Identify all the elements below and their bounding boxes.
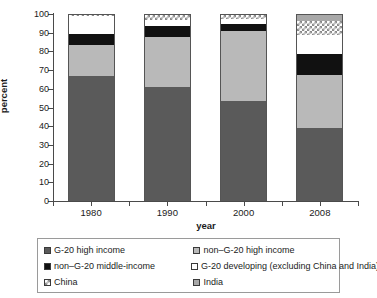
y-tick-label: 70 (39, 66, 49, 75)
x-tick-label: 1990 (137, 207, 197, 218)
y-tick-label: 80 (39, 47, 49, 56)
y-tick-label: 60 (39, 84, 49, 93)
legend-swatch-icon (193, 279, 200, 286)
y-tick-label: 40 (39, 122, 49, 131)
stacked-bar[interactable] (220, 14, 267, 201)
y-tick-label: 50 (39, 103, 49, 112)
y-tick-label: 100 (34, 10, 49, 19)
bar-segment[interactable] (69, 76, 114, 201)
y-tick-label: 20 (39, 159, 49, 168)
legend-swatch-icon (193, 247, 200, 254)
legend-item[interactable]: G-20 developing (excluding China and Ind… (191, 261, 339, 271)
x-axis-boundary-tick (129, 201, 130, 206)
chart-legend: G-20 high incomenon–G-20 high incomenon–… (37, 238, 340, 293)
legend-swatch-icon (44, 263, 51, 270)
legend-item[interactable]: non–G-20 middle-income (44, 261, 191, 271)
x-tick-mark (91, 201, 92, 206)
legend-row: G-20 high incomenon–G-20 high income (44, 242, 339, 258)
y-tick-label: 10 (39, 178, 49, 187)
legend-row: ChinaIndia (44, 274, 339, 290)
bar-segment[interactable] (297, 75, 342, 128)
bar-segment[interactable] (145, 26, 190, 37)
y-axis-title: percent (0, 79, 9, 113)
legend-row: non–G-20 middle-incomeG-20 developing (e… (44, 258, 339, 274)
bar-segment[interactable] (221, 101, 266, 201)
y-tick-label: 90 (39, 28, 49, 37)
bar-segment[interactable] (145, 37, 190, 87)
stacked-bar[interactable] (144, 14, 191, 201)
x-tick-mark (244, 201, 245, 206)
bar-segment[interactable] (297, 54, 342, 75)
bar-segment[interactable] (297, 35, 342, 55)
legend-label: non–G-20 high income (203, 245, 294, 255)
legend-label: non–G-20 middle-income (54, 261, 155, 271)
plot-area (53, 14, 358, 201)
legend-label: India (203, 277, 223, 287)
legend-item[interactable]: India (193, 277, 339, 287)
legend-swatch-icon (191, 263, 198, 270)
x-axis-end-tick (53, 201, 54, 206)
x-tick-label: 1980 (61, 207, 121, 218)
bar-segment[interactable] (69, 16, 114, 34)
legend-label: China (54, 277, 78, 287)
legend-swatch-icon (44, 279, 51, 286)
chart-figure: percent 0102030405060708090100 198019902… (0, 0, 377, 298)
x-axis-title: year (53, 220, 359, 231)
stacked-bar[interactable] (68, 14, 115, 201)
x-axis-end-tick (358, 201, 359, 206)
bar-segment[interactable] (145, 87, 190, 201)
bar-segment[interactable] (69, 45, 114, 75)
y-tick-label: 30 (39, 140, 49, 149)
legend-item[interactable]: non–G-20 high income (193, 245, 339, 255)
x-axis-boundary-tick (282, 201, 283, 206)
bar-segment[interactable] (69, 34, 114, 46)
legend-label: G-20 developing (excluding China and Ind… (201, 261, 377, 271)
x-axis-boundary-tick (206, 201, 207, 206)
legend-swatch-icon (44, 247, 51, 254)
x-tick-mark (167, 201, 168, 206)
x-tick-mark (320, 201, 321, 206)
stacked-bar[interactable] (296, 14, 343, 201)
bar-segment[interactable] (297, 21, 342, 35)
legend-item[interactable]: G-20 high income (44, 245, 193, 255)
x-tick-label: 2000 (214, 207, 274, 218)
bar-segment[interactable] (297, 128, 342, 201)
x-tick-label: 2008 (290, 207, 350, 218)
legend-label: G-20 high income (54, 245, 125, 255)
y-tick-label: 0 (44, 197, 49, 206)
bar-segment[interactable] (221, 31, 266, 101)
legend-item[interactable]: China (44, 277, 193, 287)
